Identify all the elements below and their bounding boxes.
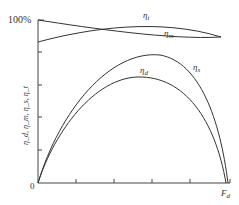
y-axis-label: η_d, η_m, η_s, η_t	[21, 85, 30, 145]
curve-eta-m	[38, 20, 221, 37]
label-eta-s: ηs	[193, 62, 200, 74]
curve-eta-d	[38, 77, 226, 183]
efficiency-chart: 100% 0 Fd ηt ηm ηs ηd η_d, η_m, η_s, η_t	[0, 0, 239, 205]
origin-label: 0	[30, 181, 35, 191]
curve-eta-t	[38, 27, 221, 42]
x-ticks	[76, 179, 230, 183]
label-eta-d: ηd	[140, 65, 148, 77]
label-eta-m: ηm	[164, 28, 174, 40]
x-end-label: Fd	[220, 188, 231, 200]
label-eta-t: ηt	[143, 10, 150, 22]
y-top-label: 100%	[8, 14, 31, 25]
y-ticks	[38, 20, 44, 150]
